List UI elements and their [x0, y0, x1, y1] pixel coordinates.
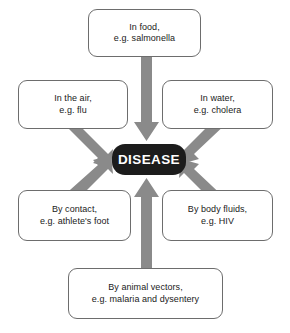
node-food-line1: In food,	[129, 22, 159, 34]
node-air-line2: e.g. flu	[59, 105, 86, 117]
node-box-water: In water, e.g. cholera	[162, 80, 273, 129]
node-contact-line1: By contact,	[52, 204, 97, 216]
node-water-line1: In water,	[200, 93, 234, 105]
node-box-food: In food, e.g. salmonella	[88, 9, 201, 57]
node-food-line2: e.g. salmonella	[114, 33, 175, 45]
node-box-animal-vectors: By animal vectors, e.g. malaria and dyse…	[68, 268, 223, 319]
node-box-air: In the air, e.g. flu	[18, 80, 128, 129]
node-water-line2: e.g. cholera	[194, 105, 242, 117]
node-contact-line2: e.g. athlete's foot	[40, 216, 109, 228]
arrow-from-vectors	[134, 178, 159, 268]
center-node-disease: DISEASE	[112, 144, 186, 175]
node-air-line1: In the air,	[54, 93, 92, 105]
node-vectors-line2: e.g. malaria and dysentery	[92, 294, 199, 306]
disease-transmission-diagram: In food, e.g. salmonella In the air, e.g…	[0, 0, 290, 333]
node-fluids-line2: e.g. HIV	[201, 216, 234, 228]
node-vectors-line1: By animal vectors,	[108, 282, 182, 294]
center-node-label: DISEASE	[118, 152, 180, 167]
node-box-contact: By contact, e.g. athlete's foot	[18, 190, 131, 241]
arrow-from-food	[134, 57, 159, 141]
node-box-body-fluids: By body fluids, e.g. HIV	[162, 190, 273, 241]
node-fluids-line1: By body fluids,	[188, 204, 247, 216]
